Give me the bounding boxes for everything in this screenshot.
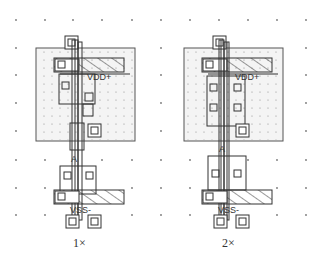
input-label-2x: A [219,144,225,154]
layout-1x: VDD+ A VSS- [36,36,135,228]
layout-figure: VDD+ A VSS- [0,0,326,268]
vss-label-2x: VSS- [218,205,239,215]
input-label-1x: A [71,154,77,164]
caption-1x: 1× [73,236,86,251]
vss-label-1x: VSS- [70,205,91,215]
layout-2x: VDD+ A VSS- [184,36,283,228]
caption-2x: 2× [222,236,235,251]
